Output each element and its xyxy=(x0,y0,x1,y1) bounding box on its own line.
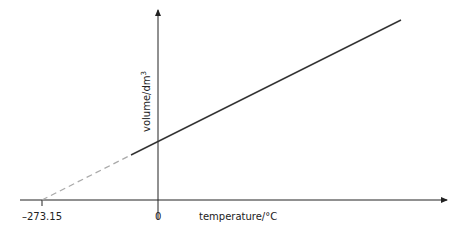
data-line xyxy=(131,20,401,155)
y-axis-label: volume/dm3 xyxy=(140,71,152,132)
chart: –273.15 0 temperature/°C volume/dm3 xyxy=(0,0,459,236)
x-axis-label: temperature/°C xyxy=(199,211,277,222)
extrapolated-line xyxy=(42,155,131,200)
tick-label-zero: 0 xyxy=(155,211,161,222)
tick-label-abs-zero: –273.15 xyxy=(22,211,62,222)
